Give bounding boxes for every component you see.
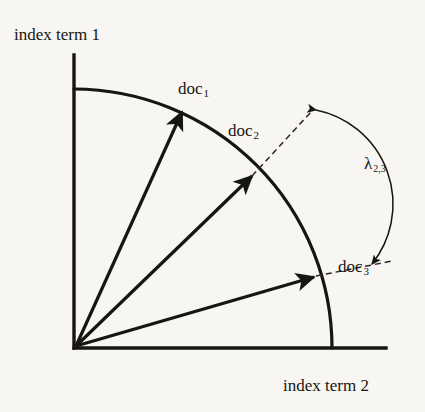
doc3-subscript: 3 [363,265,370,277]
lambda-subscript: 2,3 [372,163,386,174]
dashed-extension-doc2 [252,112,311,176]
doc2-text: doc [228,121,253,140]
vector-label-doc2: doc2 [228,122,259,139]
vector-space-diagram: index term 1 index term 2 doc1 doc2 doc3… [0,0,425,412]
doc3-text: doc [338,257,363,276]
vector-doc1 [76,112,182,346]
x-axis-label: index term 2 [283,377,369,394]
y-axis-label: index term 1 [14,26,100,43]
angle-arc-lambda [316,110,393,264]
diagram-canvas [0,0,425,412]
doc1-subscript: 1 [203,87,210,99]
vector-label-doc1: doc1 [178,80,209,97]
lambda-symbol: λ [364,154,372,173]
vector-label-doc3: doc3 [338,258,369,275]
doc1-text: doc [178,79,203,98]
doc2-subscript: 2 [253,129,260,141]
angle-label-lambda: λ2,3 [364,155,386,172]
